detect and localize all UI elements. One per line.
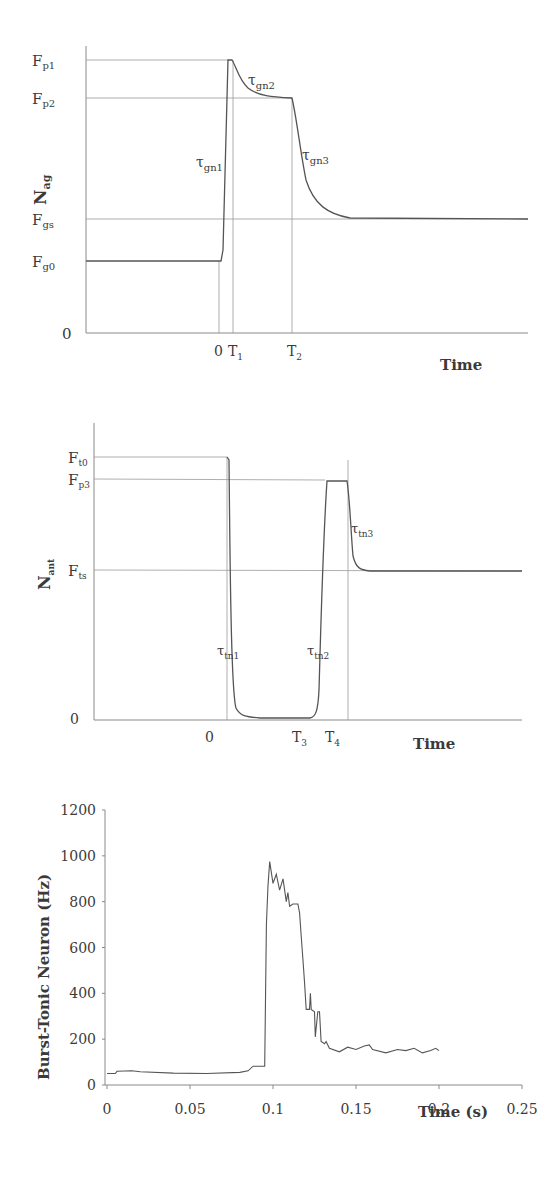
label-tau-gn3: τgn3 bbox=[302, 147, 329, 166]
antagonist-chart: Ft0 Fp3 Fts 0 0 T3 T4 Time Nant τtn1 τtn… bbox=[35, 423, 522, 753]
label-t1: T1 bbox=[228, 343, 243, 362]
label-zero-y: 0 bbox=[62, 325, 72, 343]
label-t4: T4 bbox=[325, 729, 340, 748]
label-fts: Fts bbox=[68, 562, 87, 581]
label-tau-tn2: τtn2 bbox=[307, 643, 329, 661]
y-tick-label: 400 bbox=[69, 985, 96, 1001]
label-ft0: Ft0 bbox=[68, 449, 88, 468]
x-tick-label: 0.15 bbox=[340, 1101, 371, 1117]
label-fgs: Fgs bbox=[32, 211, 54, 230]
burst-tonic-series bbox=[107, 862, 439, 1074]
label-tau-tn1: τtn1 bbox=[217, 643, 239, 661]
label-fp2: Fp2 bbox=[32, 90, 55, 109]
label-fp1: Fp1 bbox=[32, 52, 55, 71]
label-x-0: 0 bbox=[205, 729, 214, 745]
label-tau-gn2: τgn2 bbox=[248, 72, 275, 91]
y-tick-label: 600 bbox=[69, 940, 96, 956]
level-line-fp3 bbox=[94, 479, 325, 480]
label-zero-y: 0 bbox=[70, 711, 79, 727]
agonist-chart: Fp1 Fp2 Fgs Fg0 0 0 T1 T2 Time Nag τgn1 … bbox=[30, 46, 528, 374]
y-tick-label: 800 bbox=[69, 894, 96, 910]
y-tick-label: 200 bbox=[69, 1031, 96, 1047]
y-axis-title: Burst-Tonic Neuron (Hz) bbox=[35, 874, 53, 1080]
label-t3: T3 bbox=[292, 729, 307, 748]
x-tick-label: 0 bbox=[103, 1101, 112, 1117]
y-ticks: 020040060080010001200 bbox=[60, 802, 105, 1093]
x-tick-label: 0.25 bbox=[506, 1101, 537, 1117]
x-axis-title: Time bbox=[413, 735, 455, 753]
y-axis-title: Nag bbox=[30, 174, 53, 205]
label-x-0: 0 bbox=[214, 343, 223, 359]
label-tau-gn1: τgn1 bbox=[196, 154, 223, 173]
x-axis-title: Time bbox=[440, 356, 482, 374]
label-fp3: Fp3 bbox=[68, 471, 90, 490]
antagonist-curve bbox=[227, 457, 522, 718]
x-tick-label: 0.05 bbox=[174, 1101, 205, 1117]
y-axis-title: Nant bbox=[35, 558, 56, 590]
label-tau-tn3: τtn3 bbox=[351, 521, 374, 539]
burst-tonic-chart: 020040060080010001200 00.050.10.150.20.2… bbox=[35, 802, 538, 1121]
figure: Fp1 Fp2 Fgs Fg0 0 0 T1 T2 Time Nag τgn1 … bbox=[0, 0, 557, 1183]
y-tick-label: 1000 bbox=[60, 848, 96, 864]
y-tick-label: 1200 bbox=[60, 802, 96, 818]
label-fg0: Fg0 bbox=[32, 253, 55, 272]
x-axis-title: Time (s) bbox=[418, 1103, 488, 1121]
y-tick-label: 0 bbox=[87, 1077, 96, 1093]
x-tick-label: 0.1 bbox=[262, 1101, 284, 1117]
label-t2: T2 bbox=[287, 343, 302, 362]
